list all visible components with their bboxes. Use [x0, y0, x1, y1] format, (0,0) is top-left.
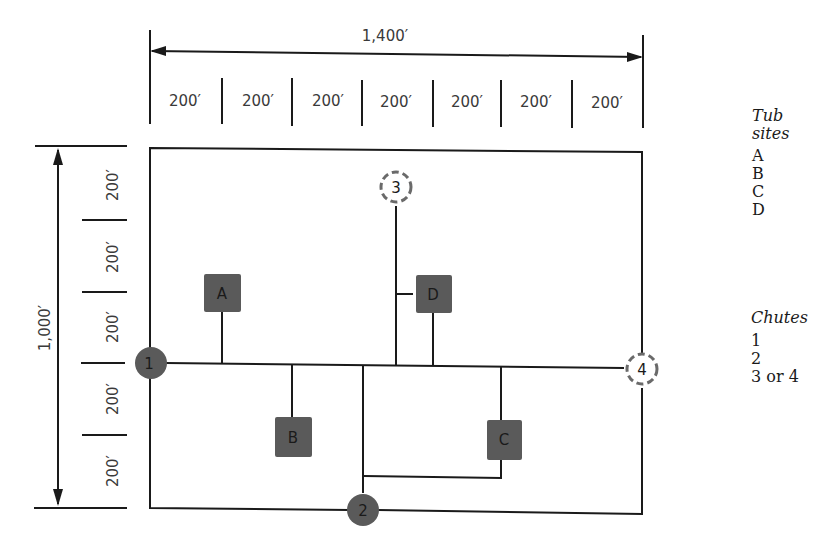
svg-text:200′: 200′	[104, 454, 122, 487]
legend-tub-item: B	[752, 165, 789, 183]
svg-text:A: A	[217, 285, 228, 303]
svg-text:200′: 200′	[242, 92, 275, 110]
svg-text:200′: 200′	[104, 382, 122, 415]
arrow-left-icon	[150, 46, 166, 56]
svg-text:200′: 200′	[451, 93, 484, 111]
svg-text:200′: 200′	[104, 168, 122, 201]
arrow-right-icon	[627, 52, 643, 62]
svg-text:1: 1	[144, 355, 154, 373]
svg-text:200′: 200′	[169, 92, 202, 110]
svg-text:200′: 200′	[104, 310, 122, 343]
svg-text:200′: 200′	[312, 92, 345, 110]
svg-text:2: 2	[358, 502, 368, 520]
svg-text:200′: 200′	[591, 94, 624, 112]
svg-text:200′: 200′	[104, 240, 122, 273]
svg-text:C: C	[499, 431, 509, 449]
legend-tub-heading-line1: Tub	[752, 107, 789, 125]
arrow-up-icon	[53, 148, 63, 165]
legend-chutes-heading: Chutes	[751, 309, 808, 327]
arrow-down-icon	[53, 489, 63, 506]
svg-text:3: 3	[391, 179, 401, 197]
legend-tub-item: A	[752, 147, 789, 165]
chute-4: 4	[627, 354, 657, 384]
chute-1: 1	[135, 347, 167, 379]
legend-tub-item: D	[752, 201, 789, 219]
width-total-label: 1,400′	[362, 27, 409, 45]
svg-text:200′: 200′	[380, 93, 413, 111]
pipe-network	[166, 206, 624, 493]
height-segment-labels: 200′ 200′ 200′ 200′ 200′	[104, 168, 122, 487]
legend-tub-sites: Tub sites A B C D	[752, 107, 789, 219]
width-segment-labels: 200′ 200′ 200′ 200′ 200′ 200′ 200′	[169, 92, 624, 112]
tub-site-d: D	[416, 275, 452, 313]
legend-chute-item: 2	[751, 350, 808, 368]
tub-site-c: C	[487, 420, 522, 460]
height-total-label: 1,000′	[36, 304, 54, 351]
svg-text:B: B	[288, 429, 298, 447]
legend-chutes: Chutes 1 2 3 or 4	[751, 309, 808, 386]
legend-tub-item: C	[752, 183, 789, 201]
chute-3: 3	[381, 172, 411, 202]
legend-tub-heading-line2: sites	[752, 125, 789, 143]
legend-chute-item: 1	[751, 332, 808, 350]
svg-text:D: D	[427, 286, 439, 304]
svg-text:4: 4	[637, 361, 647, 379]
tub-site-b: B	[275, 417, 312, 457]
tub-site-a: A	[204, 274, 241, 312]
legend-chute-item: 3 or 4	[751, 368, 808, 386]
site-layout-diagram: 1,400′ 200′ 200′ 200′ 200′ 200′ 200′ 200…	[0, 0, 818, 549]
svg-text:200′: 200′	[520, 93, 553, 111]
chute-2: 2	[347, 494, 379, 526]
